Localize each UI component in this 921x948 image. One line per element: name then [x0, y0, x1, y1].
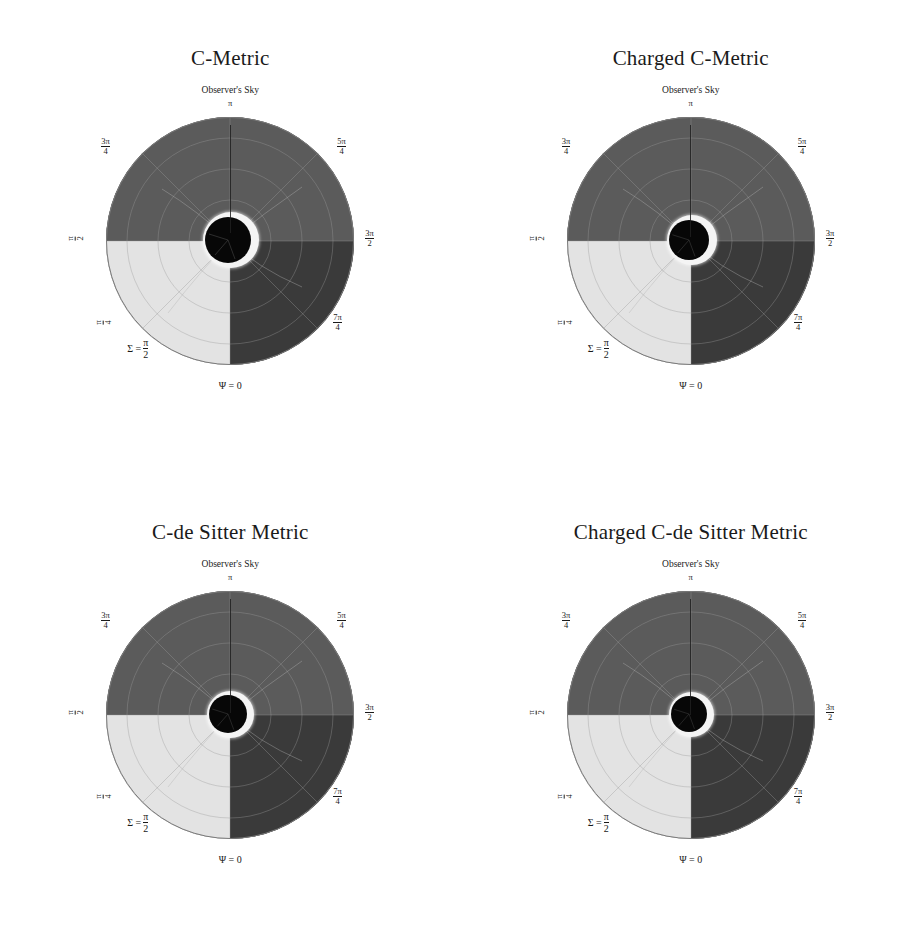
figure-grid: C-Metric Observer's Sky π 5π 4 3π 2 7π	[0, 0, 921, 948]
sky-caption: Observer's Sky	[65, 85, 395, 95]
sky-disc	[106, 117, 354, 365]
tick-label-top: π	[65, 99, 395, 108]
sky-disc-body	[106, 591, 354, 839]
sky-caption: Observer's Sky	[526, 85, 856, 95]
tick-denominator: 2	[365, 238, 374, 248]
polar-plot: Observer's Sky π 5π 4 3π 2 7π 4	[526, 85, 856, 445]
tick-denominator: 2	[826, 712, 835, 722]
tick-numerator: π	[94, 794, 103, 798]
sky-caption: Observer's Sky	[65, 559, 395, 569]
polar-plot: Observer's Sky π 5π 4 3π 2 7π 4	[526, 559, 856, 919]
tick-numerator: 3π	[365, 703, 374, 712]
shadow-rays	[205, 217, 251, 263]
tick-label-left: π 2	[526, 236, 545, 240]
tick-label-right: 3π 2	[826, 229, 835, 248]
panel-charged-c-metric: Charged C-Metric Observer's Sky π 5π 4 3…	[461, 0, 921, 474]
tick-label-right: 3π 2	[365, 703, 374, 722]
polar-plot: Observer's Sky π 5π 4 3π 2 7π 4	[65, 85, 395, 445]
tick-label-top: π	[526, 99, 856, 108]
panel-c-metric: C-Metric Observer's Sky π 5π 4 3π 2 7π	[0, 0, 461, 474]
tick-numerator: π	[554, 320, 563, 324]
sky-disc-body	[567, 117, 815, 365]
panel-title: C-de Sitter Metric	[152, 520, 308, 545]
tick-denominator: 2	[826, 238, 835, 248]
tick-denominator: 2	[365, 712, 374, 722]
tick-label-top: π	[526, 573, 856, 582]
sky-disc-body	[567, 591, 815, 839]
sky-disc	[567, 117, 815, 365]
tick-numerator: π	[554, 794, 563, 798]
tick-denominator: 2	[74, 236, 84, 240]
tick-label-bottom: Ψ = 0	[526, 855, 856, 866]
shadow-rays	[671, 696, 707, 732]
tick-numerator: π	[94, 320, 103, 324]
panel-title: Charged C-de Sitter Metric	[574, 520, 808, 545]
tick-denominator: 2	[535, 236, 545, 240]
sky-disc	[106, 591, 354, 839]
tick-label-left: π 2	[526, 710, 545, 714]
panel-title: Charged C-Metric	[613, 46, 769, 71]
sky-disc	[567, 591, 815, 839]
panel-title: C-Metric	[191, 46, 270, 71]
tick-denominator: 2	[535, 710, 545, 714]
tick-denominator: 2	[74, 710, 84, 714]
tick-numerator: π	[66, 236, 75, 240]
tick-label-bottom: Ψ = 0	[526, 381, 856, 392]
tick-label-bottom: Ψ = 0	[65, 381, 395, 392]
shadow-rays	[209, 695, 247, 733]
tick-numerator: π	[66, 710, 75, 714]
panel-charged-c-de-sitter-metric: Charged C-de Sitter Metric Observer's Sk…	[461, 474, 921, 948]
tick-numerator: π	[526, 710, 535, 714]
panel-c-de-sitter-metric: C-de Sitter Metric Observer's Sky π 5π 4…	[0, 474, 461, 948]
shadow-rays	[669, 220, 709, 260]
tick-label-right: 3π 2	[365, 229, 374, 248]
tick-numerator: 3π	[365, 229, 374, 238]
polar-plot: Observer's Sky π 5π 4 3π 2 7π 4	[65, 559, 395, 919]
tick-numerator: π	[526, 236, 535, 240]
sector-seam	[230, 125, 231, 233]
tick-label-left: π 2	[66, 236, 85, 240]
tick-label-bottom: Ψ = 0	[65, 855, 395, 866]
tick-numerator: 3π	[826, 229, 835, 238]
sky-disc-body	[106, 117, 354, 365]
sector-seam	[230, 599, 231, 713]
tick-label-left: π 2	[66, 710, 85, 714]
tick-label-top: π	[65, 573, 395, 582]
sector-seam	[690, 125, 691, 237]
tick-numerator: 3π	[826, 703, 835, 712]
tick-label-right: 3π 2	[826, 703, 835, 722]
sector-seam	[690, 599, 691, 715]
sky-caption: Observer's Sky	[526, 559, 856, 569]
